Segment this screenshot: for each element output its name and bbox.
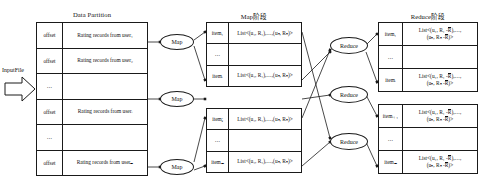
data-partition-table: offset Rating records from user₁ offset … bbox=[36, 22, 148, 176]
item-value-cell: List<(u₁, R₁ -R),…, (uₙ, Rₙ -R)> bbox=[403, 151, 477, 173]
map-node-2[interactable]: Map bbox=[160, 91, 194, 107]
data-partition-header: Data Partition bbox=[36, 11, 148, 18]
table-row: itemᵢ List<(u₁, R₁),…,(uₙ, Rₙ)> bbox=[207, 66, 301, 86]
record-cell bbox=[63, 125, 147, 150]
item-key-cell: itemᵢ₊₁ bbox=[379, 105, 403, 127]
record-cell: Rating records from userₘ bbox=[63, 151, 147, 176]
item-value-cell bbox=[229, 130, 301, 150]
item-value-line-2: (uₙ, Rₙ -R)> bbox=[427, 116, 453, 123]
item-key-cell: … bbox=[379, 46, 403, 68]
record-cell: Rating records from userᵢ bbox=[63, 100, 147, 125]
offset-cell: … bbox=[37, 125, 63, 150]
item-value-cell: List<(u₁, R₁ -R),…, (uₙ, Rₙ -R)> bbox=[403, 105, 477, 127]
reduce-node-2[interactable]: Reduce bbox=[330, 86, 368, 103]
item-value-line-1: List<(u₁, R₁ -R),…, bbox=[419, 109, 462, 116]
item-value-line-2: (uₙ, Rₙ -R)> bbox=[427, 80, 453, 87]
table-row: itemᵢ List<(u₁, R₁ -R),…, (uₙ, Rₙ -R)> bbox=[379, 69, 477, 91]
table-row: … bbox=[379, 128, 477, 151]
map-node-3[interactable]: Map bbox=[160, 159, 194, 175]
item-value-line-1: List<(u₁, R₁ -R),…, bbox=[419, 27, 462, 34]
table-row: itemₘ List<(u₁, R₁ -R),…, (uₙ, Rₙ -R)> bbox=[379, 151, 477, 173]
map-stage-header: Map阶段 bbox=[206, 11, 302, 21]
item-value-cell: List<(u₁, R₁ -R),…, (uₙ, Rₙ -R)> bbox=[403, 69, 477, 91]
item-value-line-1: List<(u₁, R₁ -R),…, bbox=[419, 155, 462, 162]
table-row: itemᵢ₊₁ List<(u₁, R₁ -R),…, (uₙ, Rₙ -R)> bbox=[379, 105, 477, 128]
item-key-cell: … bbox=[207, 44, 229, 64]
item-value-cell: List<(u₁, R₁),…,(uₙ, Rₙ)> bbox=[229, 109, 301, 129]
mapreduce-diagram: InputFile Data Partition Map阶段 Reduce阶段 … bbox=[0, 0, 489, 187]
record-cell bbox=[63, 74, 147, 99]
item-value-cell: List<(u₁, R₁),…,(uₙ, Rₙ)> bbox=[229, 23, 301, 43]
offset-cell: … bbox=[37, 74, 63, 99]
reduce-node-1[interactable]: Reduce bbox=[330, 37, 368, 54]
map-node-1[interactable]: Map bbox=[160, 34, 194, 50]
input-file-label: InputFile bbox=[2, 67, 24, 73]
item-value-line-2: (uₙ, Rₙ -R)> bbox=[427, 162, 453, 169]
reduce-node-3[interactable]: Reduce bbox=[330, 133, 368, 150]
record-cell: Rating records from user₁ bbox=[63, 23, 147, 48]
item-value-cell bbox=[403, 128, 477, 150]
table-row: … bbox=[37, 125, 147, 151]
item-key-cell: item₁ bbox=[207, 23, 229, 43]
table-row: item₁ List<(u₁, R₁ -R),…, (uₙ, Rₙ -R)> bbox=[379, 23, 477, 46]
table-row: offset Rating records from user₁ bbox=[37, 23, 147, 49]
item-key-cell: itemⱼ bbox=[207, 109, 229, 129]
item-key-cell: itemₘ bbox=[207, 152, 229, 172]
input-file-arrow-icon bbox=[4, 76, 36, 102]
item-key-cell: itemₘ bbox=[379, 151, 403, 173]
item-key-cell: item₁ bbox=[379, 23, 403, 45]
map-output-table-2: itemⱼ List<(u₁, R₁),…,(uₙ, Rₙ)> … itemₘ … bbox=[206, 108, 302, 173]
record-cell: Rating records from user₂ bbox=[63, 49, 147, 74]
item-value-line-2: (uₙ, Rₙ -R)> bbox=[427, 34, 453, 41]
offset-cell: offset bbox=[37, 49, 63, 74]
table-row: item₁ List<(u₁, R₁),…,(uₙ, Rₙ)> bbox=[207, 23, 301, 44]
table-row: offset Rating records from userₘ bbox=[37, 151, 147, 176]
table-row: … bbox=[379, 46, 477, 69]
item-key-cell: … bbox=[207, 130, 229, 150]
item-key-cell: … bbox=[379, 128, 403, 150]
item-value-cell bbox=[403, 46, 477, 68]
offset-cell: offset bbox=[37, 151, 63, 176]
reduce-output-table-1: item₁ List<(u₁, R₁ -R),…, (uₙ, Rₙ -R)> …… bbox=[378, 22, 478, 92]
item-value-cell: List<(u₁, R₁),…,(uₙ, Rₙ)> bbox=[229, 66, 301, 86]
item-value-cell bbox=[229, 44, 301, 64]
offset-cell: offset bbox=[37, 23, 63, 48]
reduce-output-table-2: itemᵢ₊₁ List<(u₁, R₁ -R),…, (uₙ, Rₙ -R)>… bbox=[378, 104, 478, 174]
item-value-line-1: List<(u₁, R₁ -R),…, bbox=[419, 73, 462, 80]
reduce-stage-header: Reduce阶段 bbox=[378, 11, 478, 21]
table-row: itemₘ List<(u₁, R₁),…,(uₙ, Rₙ)> bbox=[207, 152, 301, 172]
table-row: offset Rating records from userᵢ bbox=[37, 100, 147, 126]
table-row: offset Rating records from user₂ bbox=[37, 49, 147, 75]
item-value-cell: List<(u₁, R₁),…,(uₙ, Rₙ)> bbox=[229, 152, 301, 172]
map-output-table-1: item₁ List<(u₁, R₁),…,(uₙ, Rₙ)> … itemᵢ … bbox=[206, 22, 302, 87]
item-key-cell: itemᵢ bbox=[207, 66, 229, 86]
offset-cell: offset bbox=[37, 100, 63, 125]
table-row: … bbox=[207, 130, 301, 151]
table-row: itemⱼ List<(u₁, R₁),…,(uₙ, Rₙ)> bbox=[207, 109, 301, 130]
table-row: … bbox=[37, 74, 147, 100]
item-value-cell: List<(u₁, R₁ -R),…, (uₙ, Rₙ -R)> bbox=[403, 23, 477, 45]
table-row: … bbox=[207, 44, 301, 65]
item-key-cell: itemᵢ bbox=[379, 69, 403, 91]
